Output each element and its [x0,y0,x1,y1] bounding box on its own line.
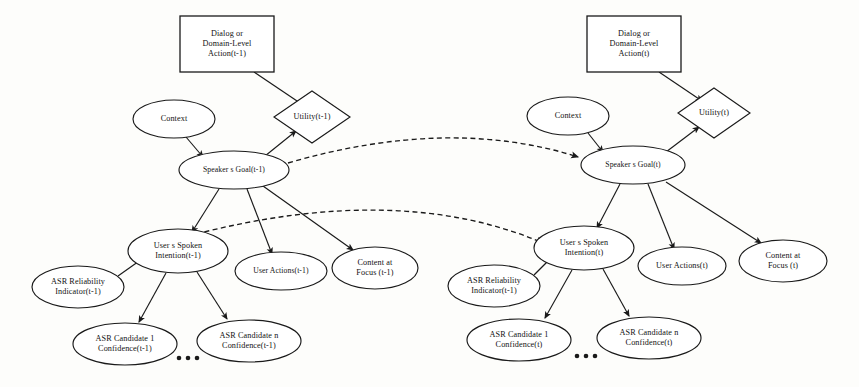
node-context-prev: Context [133,100,215,138]
edge-speakers-goal-prev-to-content-focus-prev [263,186,353,250]
node-label-dialog-action-prev: Action(t-1) [208,49,246,58]
edge-speakers-goal-cur-to-content-focus-cur [666,182,761,243]
node-label-user-actions-prev: User Actions(t-1) [253,266,309,275]
node-user-actions-prev: User Actions(t-1) [235,252,327,290]
ellipsis-dot [584,354,589,359]
nodes-layer: Dialog orDomain-LevelAction(t-1)Utility(… [32,16,827,365]
node-label-asr-candidate-1-prev: Confidence(t-1) [98,344,152,353]
node-label-context-cur: Context [555,111,582,120]
node-content-focus-cur: Content atFocus (t) [739,240,827,282]
edge-speakers-goal-prev-to-speakers-goal-cur [288,138,578,163]
edge-context-cur-to-speakers-goal-cur [588,133,603,152]
node-dialog-action-prev: Dialog orDomain-LevelAction(t-1) [180,16,274,72]
edge-spoken-intention-cur-to-asr-candidate-1-cur [545,270,572,318]
node-label-content-focus-prev: Content at [358,258,394,267]
ellipsis-dots-slice-t [575,354,598,359]
node-speakers-goal-cur: Speaker s Goal(t) [581,146,685,184]
node-label-speakers-goal-prev: Speaker s Goal(t-1) [203,165,265,174]
ellipsis-dot [575,354,580,359]
edges-layer [118,72,761,322]
edge-speakers-goal-cur-to-spoken-intention-cur [597,184,620,228]
ellipsis-dot [195,356,200,361]
edge-speakers-goal-cur-to-user-actions-cur [648,184,674,249]
node-label-dialog-action-cur: Domain-Level [610,39,660,48]
node-content-focus-prev: Content atFocus (t-1) [332,247,418,289]
node-asr-candidate-n-cur: ASR Candidate nConfidence(t) [597,317,701,359]
node-label-asr-reliability-cur: ASR Reliability [467,276,522,285]
node-asr-candidate-1-cur: ASR Candidate 1Confidence(t) [467,319,571,361]
node-spoken-intention-prev: User s SpokenIntention(t-1) [128,229,228,273]
node-context-cur: Context [527,97,609,135]
node-label-asr-candidate-n-cur: Confidence(t) [626,338,673,347]
node-spoken-intention-cur: User s SpokenIntention(t) [534,226,634,270]
node-label-asr-candidate-1-prev: ASR Candidate 1 [96,334,155,343]
ellipsis-dot [593,354,598,359]
node-label-utility-cur: Utility(t) [699,108,729,117]
edge-speakers-goal-prev-to-utility-prev [265,131,296,156]
node-asr-candidate-1-prev: ASR Candidate 1Confidence(t-1) [73,323,177,365]
node-label-asr-reliability-cur: Indicator(t-1) [471,286,517,295]
node-label-spoken-intention-prev: Intention(t-1) [155,251,201,260]
node-utility-prev: Utility(t-1) [274,91,350,143]
node-label-spoken-intention-prev: User s Spoken [154,241,203,250]
node-user-actions-cur: User Actions(t) [638,247,726,285]
node-label-dialog-action-cur: Action(t) [619,49,650,58]
node-label-asr-candidate-n-prev: Confidence(t-1) [222,341,276,350]
node-label-spoken-intention-cur: User s Spoken [560,238,609,247]
node-label-asr-candidate-1-cur: ASR Candidate 1 [490,330,549,339]
edge-spoken-intention-prev-to-asr-candidate-n-prev [197,272,227,319]
node-label-dialog-action-prev: Domain-Level [203,39,253,48]
edge-speakers-goal-prev-to-spoken-intention-prev [192,189,219,232]
node-label-asr-candidate-n-prev: ASR Candidate n [220,331,279,340]
node-asr-candidate-n-prev: ASR Candidate nConfidence(t-1) [197,320,301,362]
node-label-utility-prev: Utility(t-1) [293,112,330,121]
node-label-asr-candidate-n-cur: ASR Candidate n [620,328,679,337]
node-label-asr-reliability-prev: ASR Reliability [51,277,106,286]
edge-spoken-intention-prev-to-asr-candidate-1-prev [139,273,166,322]
edge-speakers-goal-prev-to-spoken-intention-cur [196,210,543,243]
edge-speakers-goal-cur-to-utility-cur [666,127,699,152]
node-label-user-actions-cur: User Actions(t) [656,261,708,270]
edge-speakers-goal-prev-to-user-actions-prev [247,189,272,254]
node-asr-reliability-prev: ASR ReliabilityIndicator(t-1) [32,266,124,308]
edge-context-prev-to-speakers-goal-prev [186,137,203,157]
node-label-spoken-intention-cur: Intention(t) [565,248,604,257]
ellipsis-dot [186,356,191,361]
edge-dialog-action-prev-to-utility-prev [254,72,303,105]
node-label-speakers-goal-cur: Speaker s Goal(t) [605,160,661,169]
ellipsis-dots-slice-t-minus-1 [177,356,200,361]
node-speakers-goal-prev: Speaker s Goal(t-1) [179,151,289,189]
bayesian-network-graph: Dialog orDomain-LevelAction(t-1)Utility(… [0,0,859,387]
edge-spoken-intention-cur-to-asr-candidate-n-cur [603,269,629,316]
node-label-asr-candidate-1-cur: Confidence(t) [496,340,543,349]
node-dialog-action-cur: Dialog orDomain-LevelAction(t) [587,16,681,72]
node-label-dialog-action-cur: Dialog or [618,29,650,38]
node-utility-cur: Utility(t) [678,88,750,138]
node-label-context-prev: Context [161,114,188,123]
diagram-canvas: Dialog orDomain-LevelAction(t-1)Utility(… [0,0,859,387]
edge-dialog-action-cur-to-utility-cur [659,72,702,101]
ellipsis-dot [177,356,182,361]
node-label-content-focus-prev: Focus (t-1) [356,268,393,277]
node-label-content-focus-cur: Focus (t) [768,261,798,270]
node-label-asr-reliability-prev: Indicator(t-1) [55,287,101,296]
node-label-dialog-action-prev: Dialog or [211,29,243,38]
node-label-content-focus-cur: Content at [766,251,802,260]
node-asr-reliability-cur: ASR ReliabilityIndicator(t-1) [448,265,540,307]
